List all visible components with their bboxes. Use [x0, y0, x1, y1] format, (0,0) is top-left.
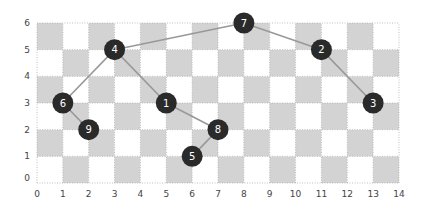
graph-node[interactable]: 9	[78, 119, 99, 140]
x-tick-label: 4	[138, 189, 144, 199]
grid-cell	[140, 50, 166, 77]
grid-cell	[296, 130, 322, 157]
grid-cell	[347, 50, 373, 77]
graph-node[interactable]: 8	[208, 119, 229, 140]
grid-cell	[244, 103, 270, 130]
grid-cell	[321, 130, 347, 157]
grid-cell	[89, 156, 115, 183]
grid-cell	[192, 23, 218, 50]
grid-cell	[244, 76, 270, 103]
grid-cell	[321, 156, 347, 183]
grid-cell	[115, 130, 141, 157]
grid-cell	[115, 103, 141, 130]
node-label: 9	[86, 124, 92, 135]
node-label: 6	[60, 98, 66, 109]
x-tick-label: 9	[267, 189, 273, 199]
node-label: 4	[111, 44, 117, 55]
y-axis-ticks: 0123456	[24, 18, 30, 183]
grid-cell	[373, 23, 399, 50]
grid-cell	[347, 23, 373, 50]
grid-cell	[296, 76, 322, 103]
x-tick-label: 0	[34, 189, 40, 199]
x-tick-label: 8	[241, 189, 247, 199]
graph-node[interactable]: 5	[182, 146, 203, 167]
x-tick-label: 10	[290, 189, 302, 199]
grid-cell	[140, 130, 166, 157]
node-label: 8	[215, 124, 221, 135]
grid-cell	[373, 130, 399, 157]
grid-cell	[37, 50, 63, 77]
y-tick-label: 0	[24, 173, 30, 183]
y-tick-label: 2	[24, 125, 30, 135]
grid-cell	[270, 76, 296, 103]
grid-cell	[244, 130, 270, 157]
grid-cell	[321, 76, 347, 103]
x-tick-label: 6	[189, 189, 195, 199]
grid-cell	[115, 156, 141, 183]
x-axis-ticks: 01234567891011121314	[34, 189, 405, 199]
grid-cell	[115, 76, 141, 103]
grid-cell	[244, 156, 270, 183]
grid-cell	[218, 156, 244, 183]
graph-node[interactable]: 3	[363, 93, 384, 114]
graph-node[interactable]: 1	[156, 93, 177, 114]
graph-node[interactable]: 2	[311, 39, 332, 60]
grid-cell	[37, 23, 63, 50]
y-tick-label: 4	[24, 71, 30, 81]
grid-cell	[270, 156, 296, 183]
node-label: 2	[318, 44, 324, 55]
node-label: 5	[189, 151, 195, 162]
x-tick-label: 11	[316, 189, 327, 199]
y-tick-label: 6	[24, 18, 30, 28]
graph-node[interactable]: 7	[233, 13, 254, 34]
grid-graph-chart: 01234567891011121314 0123456 123456789	[0, 0, 426, 211]
grid-cell	[218, 50, 244, 77]
x-tick-label: 5	[163, 189, 169, 199]
grid-cell	[192, 76, 218, 103]
grid-cell	[166, 50, 192, 77]
grid-cell	[63, 23, 89, 50]
grid-cell	[37, 130, 63, 157]
grid-cell	[37, 156, 63, 183]
grid-cell	[321, 103, 347, 130]
graph-node[interactable]: 4	[104, 39, 125, 60]
y-tick-label: 1	[24, 151, 30, 161]
x-tick-label: 7	[215, 189, 221, 199]
x-tick-label: 13	[367, 189, 378, 199]
grid-cell	[270, 50, 296, 77]
x-tick-label: 14	[393, 189, 405, 199]
node-label: 7	[241, 18, 247, 29]
grid-cell	[63, 156, 89, 183]
x-tick-label: 3	[112, 189, 118, 199]
grid-cell	[244, 50, 270, 77]
grid-cell	[218, 76, 244, 103]
grid-cell	[296, 103, 322, 130]
grid-cell	[296, 156, 322, 183]
grid-cell	[192, 50, 218, 77]
grid-cell	[347, 156, 373, 183]
y-tick-label: 5	[24, 45, 30, 55]
y-tick-label: 3	[24, 98, 30, 108]
x-tick-label: 2	[86, 189, 92, 199]
grid-cell	[63, 50, 89, 77]
grid-cell	[89, 76, 115, 103]
grid-cell	[140, 23, 166, 50]
grid-cell	[373, 156, 399, 183]
graph-node[interactable]: 6	[52, 93, 73, 114]
node-label: 1	[163, 98, 169, 109]
grid-cell	[373, 50, 399, 77]
grid-cell	[270, 130, 296, 157]
x-tick-label: 12	[342, 189, 353, 199]
grid-cell	[347, 130, 373, 157]
x-tick-label: 1	[60, 189, 66, 199]
grid-cell	[270, 103, 296, 130]
node-label: 3	[370, 98, 376, 109]
grid-cell	[140, 156, 166, 183]
